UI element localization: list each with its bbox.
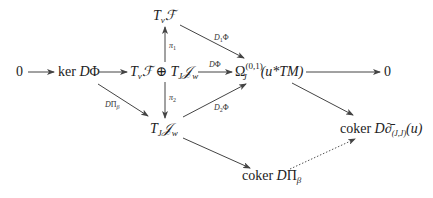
label-pi2: π2 (169, 93, 176, 103)
node-coker-dpi: coker DΠβ (242, 168, 302, 185)
node-ker: ker DΦ (58, 64, 100, 79)
node-top: Tvℱ (153, 8, 179, 25)
node-zero-right: 0 (384, 64, 391, 79)
svg-text:Tvℱ⊕TJ𝒥w: Tvℱ⊕TJ𝒥w (130, 64, 198, 81)
svg-text:coker DΠβ: coker DΠβ (242, 168, 302, 185)
svg-text:ker DΦ: ker DΦ (58, 64, 100, 79)
arrow-bottom-to-cokerdpi (183, 138, 250, 168)
node-omega: Ω(0,1)J(u*TM) (235, 61, 304, 82)
arrow-omega-to-coker (292, 83, 353, 115)
svg-text:Tvℱ: Tvℱ (153, 8, 179, 25)
svg-text:Ω(0,1)J(u*TM): Ω(0,1)J(u*TM) (235, 61, 304, 82)
label-dpibeta: DΠβ (104, 100, 120, 110)
arrow-d1phi (180, 25, 244, 58)
node-bottom: TJ𝒥w (150, 121, 178, 138)
node-center: Tvℱ⊕TJ𝒥w (130, 64, 198, 81)
node-coker-dbar: coker D∂̄(J,J)(u) (340, 121, 423, 138)
arrow-dotted-coker (290, 139, 355, 169)
label-pi1: π1 (169, 41, 176, 51)
label-d1phi: D1Φ (213, 33, 229, 43)
label-d2phi: D2Φ (213, 103, 229, 113)
label-dphi: DΦ (208, 60, 221, 69)
arrow-d2phi (183, 84, 246, 117)
commutative-diagram: 0 ker DΦ Tvℱ Tvℱ⊕TJ𝒥w TJ𝒥w Ω(0,1)J(u*TM)… (0, 0, 433, 198)
node-zero-left: 0 (16, 64, 23, 79)
svg-text:coker D∂̄(J,J)(u): coker D∂̄(J,J)(u) (340, 121, 423, 138)
svg-text:TJ𝒥w: TJ𝒥w (150, 121, 178, 138)
